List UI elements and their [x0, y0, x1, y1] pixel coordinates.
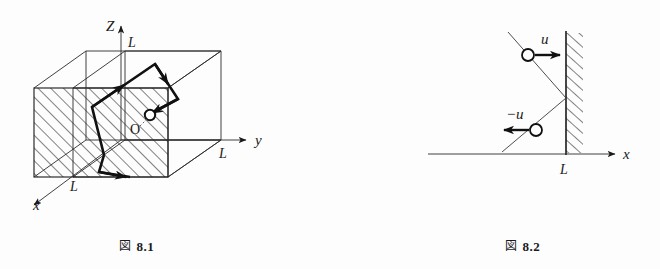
- particle-circle-incoming: [522, 49, 534, 61]
- x-axis-label: x: [32, 197, 40, 213]
- cube-edge-left-top: [34, 51, 86, 88]
- hatched-wall: [566, 31, 583, 155]
- z-length-label: L: [127, 35, 136, 50]
- figure-8-2-caption-number: 8.2: [523, 239, 541, 254]
- cube-edge-tl: [73, 51, 125, 88]
- figure-8-1-caption-kanji: 図: [119, 236, 132, 253]
- figure-8-2-graphic: u −u x L: [410, 0, 660, 235]
- cube-edge-front-right-top: [168, 51, 221, 88]
- velocity-label-u: u: [541, 31, 549, 47]
- figure-8-1-caption-number: 8.1: [137, 239, 155, 254]
- x-axis-label-2: x: [622, 146, 630, 162]
- wall-position-label: L: [559, 162, 568, 177]
- trajectory-arrow-2: [155, 64, 168, 84]
- figure-8-1-caption: 図8.1: [119, 236, 154, 255]
- cube-edge-front-right-bottom: [168, 140, 221, 177]
- z-axis-label: Z: [106, 18, 115, 34]
- figure-8-2-caption: 図8.2: [505, 236, 540, 255]
- y-axis-label: y: [253, 132, 262, 148]
- particle-circle: [145, 110, 155, 120]
- figure-8-2-caption-kanji: 図: [505, 236, 518, 253]
- velocity-label-minus-u: −u: [506, 106, 524, 122]
- incoming-path-segment: [508, 32, 566, 98]
- x-length-label: L: [69, 179, 78, 194]
- figure-8-1-graphic: Z y x L L L O: [0, 0, 330, 235]
- wall-hatch-area: [566, 33, 583, 153]
- figure-page: Z y x L L L O 図8.1: [0, 0, 660, 269]
- y-length-label: L: [218, 146, 227, 161]
- particle-circle-reflected: [530, 124, 542, 136]
- origin-label: O: [130, 122, 140, 137]
